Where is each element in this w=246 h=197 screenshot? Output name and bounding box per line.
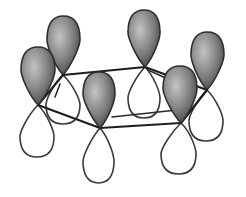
- p-orbital-front-center-open-lobe: [83, 128, 114, 183]
- back-top-lobes: [47, 10, 224, 90]
- ring-bond-front-center-front-right: [100, 123, 181, 128]
- p-orbital-back-center-shaded-lobe: [128, 10, 160, 67]
- p-orbital-front-center-shaded-lobe: [83, 72, 115, 128]
- benzene-p-orbital-diagram: [0, 0, 246, 197]
- orbital-diagram-canvas: [0, 0, 246, 197]
- p-orbital-back-center-open-lobe: [128, 67, 160, 118]
